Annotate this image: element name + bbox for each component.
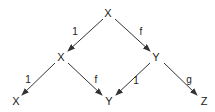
arrow-n2-to-n5 <box>164 63 197 95</box>
node-label: X <box>104 7 112 19</box>
arrow-n0-to-n2 <box>115 19 150 51</box>
node-label: X <box>12 95 20 107</box>
edge-label: 1 <box>25 74 31 85</box>
nodes-layer: XXYXYZ <box>12 7 207 107</box>
edge-label: g <box>186 74 192 85</box>
edge-labels-layer: 1f1f1g <box>25 26 192 86</box>
commutative-diagram: 1f1f1g XXYXYZ <box>0 0 215 112</box>
edge-label: 1 <box>133 75 139 86</box>
edges-layer <box>22 19 197 95</box>
edge-label: 1 <box>72 26 78 37</box>
edge-label: f <box>95 74 98 85</box>
node-label: Y <box>152 51 160 63</box>
node-label: Z <box>201 95 208 107</box>
node-label: X <box>57 51 65 63</box>
edge-label: f <box>140 26 143 37</box>
node-label: Y <box>105 95 113 107</box>
